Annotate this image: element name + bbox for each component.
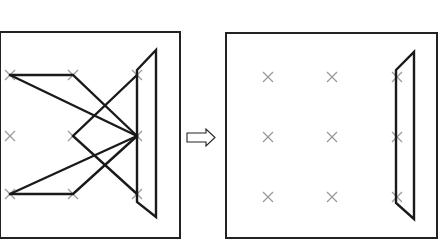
left-converging-lines (10, 75, 137, 194)
right-panel-frame (226, 33, 437, 238)
grid-marker-x-icon (5, 131, 15, 141)
connector-line (73, 75, 137, 194)
transform-arrow-icon (187, 129, 215, 146)
grid-marker-x-icon (263, 192, 273, 202)
grid-marker-x-icon (327, 132, 337, 142)
grid-marker-x-icon (263, 72, 273, 82)
connector-line (10, 136, 137, 194)
grid-marker-x-icon (263, 132, 273, 142)
right-panel (226, 33, 437, 238)
transformation-diagram (0, 0, 440, 240)
left-panel-frame (0, 32, 180, 238)
grid-marker-x-icon (327, 72, 337, 82)
right-grid-markers (263, 72, 402, 202)
grid-marker-x-icon (327, 192, 337, 202)
connector-line (10, 75, 137, 136)
left-panel (0, 32, 180, 238)
